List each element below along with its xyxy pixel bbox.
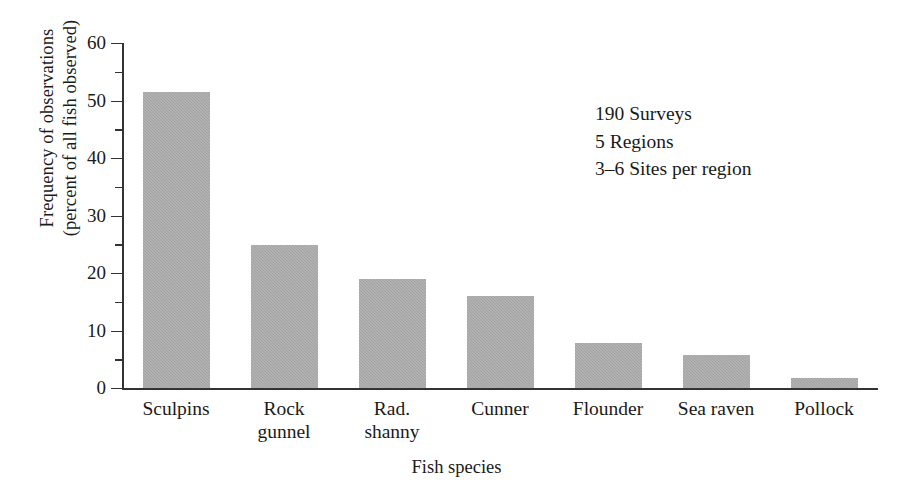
y-tick-mark [115,359,122,360]
plot-area: 0102030405060 [122,43,878,388]
y-tick-label: 50 [87,90,106,112]
x-axis-label-line: Cunner [446,397,554,420]
y-axis-title: Frequency of observations (percent of al… [31,0,87,273]
y-tick-label: 10 [87,320,106,342]
x-axis-title: Fish species [0,457,913,478]
bar-cunner [467,296,534,388]
x-axis-label-line: Flounder [554,397,662,420]
y-tick-label: 30 [87,205,106,227]
annotation-line-3: 3–6 Sites per region [595,155,752,183]
y-tick-label: 20 [87,262,106,284]
y-tick-mark [115,244,122,245]
x-axis-label-sculpins: Sculpins [122,397,230,420]
y-tick-mark [111,388,122,389]
y-tick-mark [111,43,122,44]
y-tick-mark [115,187,122,188]
y-tick-mark [115,72,122,73]
x-axis-label-line: Sculpins [122,397,230,420]
x-axis-line [122,388,878,390]
x-axis-label-pollock: Pollock [770,397,878,420]
y-axis-title-line-2: (percent of all fish observed) [59,20,82,237]
x-axis-label-line: gunnel [230,420,338,443]
x-axis-label-flounder: Flounder [554,397,662,420]
bar-sculpins [143,92,210,388]
x-axis-label-line: shanny [338,420,446,443]
x-axis-label-rad-shanny: Rad.shanny [338,397,446,444]
bar-pollock [791,378,858,388]
y-tick-mark [111,273,122,274]
y-tick-label: 0 [97,377,107,399]
y-axis-title-line-1: Frequency of observations [36,29,59,228]
y-tick-mark [115,129,122,130]
bar-rad-shanny [359,279,426,388]
y-tick-label: 60 [87,32,106,54]
y-axis-line [122,43,124,388]
x-axis-label-cunner: Cunner [446,397,554,420]
survey-annotation: 190 Surveys5 Regions3–6 Sites per region [595,100,752,183]
bar-chart-figure: Frequency of observations (percent of al… [0,0,913,503]
y-tick-mark [111,216,122,217]
y-tick-mark [111,158,122,159]
annotation-line-2: 5 Regions [595,128,752,156]
annotation-line-1: 190 Surveys [595,100,752,128]
bar-sea-raven [683,355,750,388]
x-axis-label-line: Pollock [770,397,878,420]
x-axis-label-line: Rock [230,397,338,420]
bar-rock-gunnel [251,245,318,388]
bar-flounder [575,343,642,388]
y-tick-mark [111,331,122,332]
y-tick-mark [115,302,122,303]
x-axis-label-line: Sea raven [662,397,770,420]
y-tick-mark [111,101,122,102]
x-axis-label-rock-gunnel: Rockgunnel [230,397,338,444]
y-tick-label: 40 [87,147,106,169]
x-axis-label-sea-raven: Sea raven [662,397,770,420]
x-axis-label-line: Rad. [338,397,446,420]
